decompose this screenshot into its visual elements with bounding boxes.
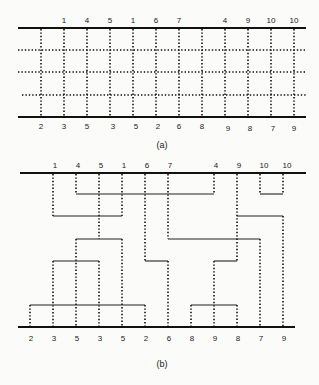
svg-text:9: 9 bbox=[213, 334, 218, 343]
panel-b-caption: (b) bbox=[157, 359, 168, 369]
svg-text:8: 8 bbox=[200, 122, 205, 131]
svg-text:8: 8 bbox=[190, 334, 195, 343]
svg-text:6: 6 bbox=[154, 16, 159, 25]
panel-a-tracks bbox=[18, 50, 306, 95]
svg-text:1: 1 bbox=[53, 161, 58, 170]
panel-a-top-labels: 1 4 5 1 6 7 4 9 10 10 bbox=[62, 16, 299, 25]
panel-a: 1 4 5 1 6 7 4 9 10 10 2 3 5 3 5 2 6 8 9 … bbox=[18, 16, 306, 150]
svg-text:6: 6 bbox=[167, 334, 172, 343]
svg-text:2: 2 bbox=[144, 334, 149, 343]
svg-text:1: 1 bbox=[122, 161, 127, 170]
svg-text:8: 8 bbox=[248, 124, 253, 133]
svg-text:7: 7 bbox=[168, 161, 173, 170]
panel-a-bottom-labels: 2 3 5 3 5 2 6 8 9 8 7 9 bbox=[39, 122, 297, 133]
svg-text:5: 5 bbox=[121, 334, 126, 343]
panel-a-caption: (a) bbox=[157, 140, 168, 150]
svg-text:3: 3 bbox=[52, 334, 57, 343]
svg-text:7: 7 bbox=[177, 16, 182, 25]
svg-text:5: 5 bbox=[99, 161, 104, 170]
svg-text:3: 3 bbox=[98, 334, 103, 343]
svg-text:4: 4 bbox=[214, 161, 219, 170]
svg-text:9: 9 bbox=[292, 124, 297, 133]
svg-text:3: 3 bbox=[62, 122, 67, 131]
svg-text:4: 4 bbox=[85, 16, 90, 25]
svg-text:10: 10 bbox=[260, 161, 269, 170]
panel-b-bottom-labels: 2 3 5 3 5 2 6 8 9 8 7 9 bbox=[29, 334, 287, 343]
svg-text:8: 8 bbox=[236, 334, 241, 343]
svg-text:10: 10 bbox=[267, 16, 276, 25]
svg-text:2: 2 bbox=[39, 122, 44, 131]
svg-text:5: 5 bbox=[75, 334, 80, 343]
svg-text:5: 5 bbox=[108, 16, 113, 25]
svg-text:9: 9 bbox=[282, 334, 287, 343]
panel-b-vertical-segments bbox=[30, 174, 283, 326]
svg-text:5: 5 bbox=[134, 122, 139, 131]
channel-routing-figure: 1 4 5 1 6 7 4 9 10 10 2 3 5 3 5 2 6 8 9 … bbox=[0, 0, 319, 385]
svg-text:2: 2 bbox=[29, 334, 34, 343]
panel-b: 1 4 5 1 6 7 4 9 10 10 2 3 5 3 5 2 6 8 9 … bbox=[18, 161, 306, 369]
svg-text:2: 2 bbox=[156, 122, 161, 131]
svg-text:4: 4 bbox=[76, 161, 81, 170]
svg-text:9: 9 bbox=[237, 161, 242, 170]
svg-text:7: 7 bbox=[259, 334, 264, 343]
svg-text:3: 3 bbox=[111, 122, 116, 131]
svg-text:4: 4 bbox=[223, 16, 228, 25]
svg-text:7: 7 bbox=[271, 124, 276, 133]
svg-text:1: 1 bbox=[62, 16, 67, 25]
svg-text:1: 1 bbox=[131, 16, 136, 25]
svg-text:9: 9 bbox=[246, 16, 251, 25]
svg-text:9: 9 bbox=[226, 124, 231, 133]
svg-text:10: 10 bbox=[290, 16, 299, 25]
panel-b-top-labels: 1 4 5 1 6 7 4 9 10 10 bbox=[53, 161, 292, 170]
svg-text:6: 6 bbox=[145, 161, 150, 170]
svg-text:10: 10 bbox=[283, 161, 292, 170]
svg-text:5: 5 bbox=[85, 122, 90, 131]
svg-text:6: 6 bbox=[177, 122, 182, 131]
panel-b-horizontal-trunks bbox=[30, 194, 283, 305]
